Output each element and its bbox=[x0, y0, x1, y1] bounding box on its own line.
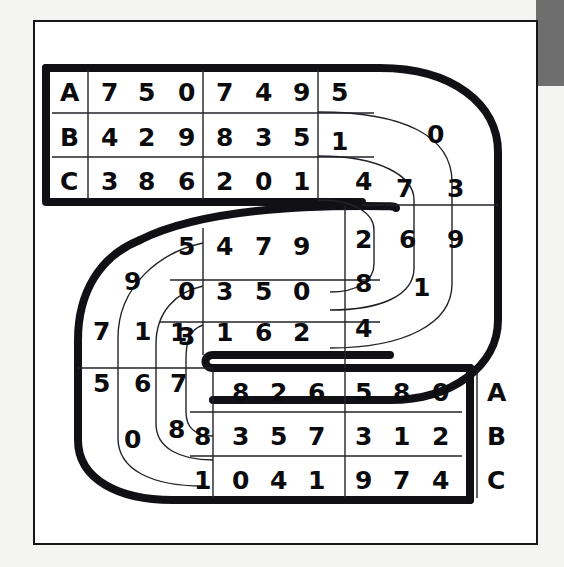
bottom-row-a-cell-4: 8 bbox=[393, 378, 410, 407]
upper-tail-underside bbox=[140, 206, 362, 240]
upper-tail-cap bbox=[362, 206, 396, 208]
mid-row-1-cell-3: 0 bbox=[293, 277, 310, 306]
left-middle-2: 8 bbox=[168, 415, 185, 444]
top-row-b-cell-6: 1 bbox=[331, 127, 348, 156]
top-row-a-cell-0: 7 bbox=[101, 78, 118, 107]
right-inner-3: 4 bbox=[355, 314, 372, 343]
top-row-c-cell-5: 1 bbox=[293, 167, 310, 196]
bottom-row-b-cell-3: 7 bbox=[308, 422, 325, 451]
bottom-row-b-cell-5: 1 bbox=[393, 422, 410, 451]
bottom-row-c-cell-1: 0 bbox=[232, 466, 249, 495]
bottom-row-a-cell-1: 2 bbox=[270, 378, 287, 407]
mid-row-0-cell-2: 7 bbox=[255, 232, 272, 261]
top-row-c-cell-1: 8 bbox=[138, 167, 155, 196]
bottom-band: 8 2 6 5 8 0 A 8 3 5 7 3 1 2 B 1 0 4 1 9 … bbox=[194, 378, 507, 495]
bottom-row-a-cell-0: 8 bbox=[232, 378, 249, 407]
left-outer-2: 5 bbox=[93, 369, 110, 398]
right-middle-2: 6 bbox=[399, 225, 416, 254]
top-row-a-cell-3: 7 bbox=[216, 78, 233, 107]
top-row-b-cell-2: 9 bbox=[178, 123, 195, 152]
left-middle-0: 1 bbox=[134, 317, 151, 346]
top-row-a-label: A bbox=[60, 78, 80, 107]
bottom-row-c-cell-4: 9 bbox=[355, 466, 372, 495]
left-inner-0: 7 bbox=[170, 369, 187, 398]
bottom-row-a-label: A bbox=[487, 378, 507, 407]
left-u-turn: 9 7 5 0 1 6 8 7 1 bbox=[93, 267, 187, 454]
right-outer-0: 0 bbox=[427, 120, 444, 149]
bottom-row-a-cell-5: 0 bbox=[432, 378, 449, 407]
mid-row-0-cell-0: 5 bbox=[178, 232, 195, 261]
bottom-row-c-label: C bbox=[487, 466, 505, 495]
right-inner-2: 8 bbox=[355, 269, 372, 298]
top-row-a-cell-5: 9 bbox=[293, 78, 310, 107]
bottom-row-b-cell-2: 5 bbox=[270, 422, 287, 451]
left-outer-0: 9 bbox=[124, 267, 141, 296]
top-row-b-cell-4: 3 bbox=[255, 123, 272, 152]
right-outer-1: 3 bbox=[447, 174, 464, 203]
top-row-c-cell-0: 3 bbox=[101, 167, 118, 196]
bottom-row-b-cell-1: 3 bbox=[232, 422, 249, 451]
bottom-row-c-cell-3: 1 bbox=[308, 466, 325, 495]
mid-row-0-cell-3: 9 bbox=[293, 232, 310, 261]
right-middle-1: 7 bbox=[396, 174, 413, 203]
mid-row-2-cell-1: 1 bbox=[216, 318, 233, 347]
right-inner-0: 4 bbox=[355, 167, 372, 196]
bottom-row-b-cell-0: 8 bbox=[194, 422, 211, 451]
top-row-a-cell-2: 0 bbox=[178, 78, 195, 107]
middle-band: 5 4 7 9 0 3 5 0 3 1 6 2 bbox=[178, 232, 310, 351]
right-u-turn: 0 7 3 4 2 6 9 8 1 4 bbox=[355, 120, 464, 343]
left-outer-3: 0 bbox=[124, 425, 141, 454]
serpentine-grid-diagram: A 7 5 0 7 4 9 5 B 4 2 9 8 3 5 1 C 3 8 6 … bbox=[0, 0, 564, 567]
bottom-row-a-cell-2: 6 bbox=[308, 378, 325, 407]
left-middle-1: 6 bbox=[134, 369, 151, 398]
bottom-row-c-cell-6: 4 bbox=[432, 466, 449, 495]
bottom-row-b-cell-4: 3 bbox=[355, 422, 372, 451]
bottom-row-b-cell-6: 2 bbox=[432, 422, 449, 451]
top-row-b-cell-0: 4 bbox=[101, 123, 118, 152]
top-row-c-cell-2: 6 bbox=[178, 167, 195, 196]
top-row-a-cell-1: 5 bbox=[138, 78, 155, 107]
bottom-row-b-label: B bbox=[487, 422, 506, 451]
top-row-b-cell-3: 8 bbox=[216, 123, 233, 152]
left-inner-1: 1 bbox=[170, 318, 187, 347]
figure-page: A 7 5 0 7 4 9 5 B 4 2 9 8 3 5 1 C 3 8 6 … bbox=[0, 0, 564, 567]
mid-row-1-cell-1: 3 bbox=[216, 277, 233, 306]
bottom-row-c-cell-2: 4 bbox=[270, 466, 287, 495]
right-outer-2: 9 bbox=[447, 225, 464, 254]
mid-row-1-cell-2: 5 bbox=[255, 277, 272, 306]
top-row-b-label: B bbox=[60, 123, 79, 152]
top-row-b-cell-1: 2 bbox=[138, 123, 155, 152]
top-band: A 7 5 0 7 4 9 5 B 4 2 9 8 3 5 1 C 3 8 6 … bbox=[60, 78, 348, 196]
right-outer-3: 1 bbox=[413, 273, 430, 302]
top-row-a-cell-4: 4 bbox=[255, 78, 272, 107]
left-outer-1: 7 bbox=[93, 317, 110, 346]
right-inner-1: 2 bbox=[355, 225, 372, 254]
top-band-left-bottom-edge bbox=[46, 68, 362, 202]
mid-row-0-cell-1: 4 bbox=[216, 232, 233, 261]
mid-row-1-cell-0: 0 bbox=[178, 277, 195, 306]
top-row-c-cell-3: 2 bbox=[216, 167, 233, 196]
top-row-a-cell-6: 5 bbox=[331, 78, 348, 107]
top-row-c-label: C bbox=[60, 167, 78, 196]
bottom-row-a-cell-3: 5 bbox=[355, 378, 372, 407]
top-row-c-cell-4: 0 bbox=[255, 167, 272, 196]
bottom-row-c-cell-5: 7 bbox=[393, 466, 410, 495]
mid-row-2-cell-3: 2 bbox=[293, 318, 310, 347]
mid-row-2-cell-2: 6 bbox=[255, 318, 272, 347]
top-row-b-cell-5: 5 bbox=[293, 123, 310, 152]
bottom-row-c-cell-0: 1 bbox=[194, 466, 211, 495]
